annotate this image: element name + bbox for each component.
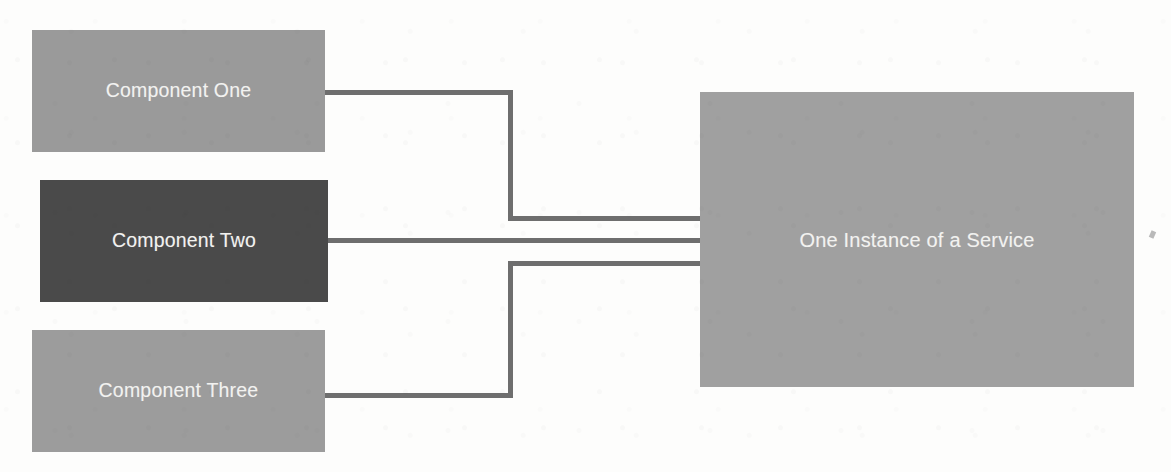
edge-component-one-segment-vertical: [508, 90, 513, 221]
node-component-two[interactable]: Component Two: [40, 180, 328, 302]
node-component-one-label: Component One: [106, 80, 252, 101]
edge-component-one-segment-horizontal-in: [508, 216, 702, 221]
edge-component-one-segment-horizontal-out: [325, 90, 513, 95]
node-component-two-label: Component Two: [112, 230, 256, 251]
edge-component-two-segment-horizontal: [328, 238, 702, 243]
stray-ink-mark: [1149, 230, 1156, 238]
diagram-canvas: Component One Component Two Component Th…: [0, 0, 1171, 472]
node-service-instance-label: One Instance of a Service: [799, 229, 1034, 251]
node-component-three[interactable]: Component Three: [32, 330, 325, 452]
node-component-three-label: Component Three: [99, 380, 259, 401]
edge-component-three-segment-horizontal-out: [325, 393, 513, 398]
edge-component-three-segment-vertical: [508, 261, 513, 398]
node-component-one[interactable]: Component One: [32, 30, 325, 152]
node-service-instance[interactable]: One Instance of a Service: [700, 92, 1134, 387]
edge-component-three-segment-horizontal-in: [508, 261, 702, 266]
